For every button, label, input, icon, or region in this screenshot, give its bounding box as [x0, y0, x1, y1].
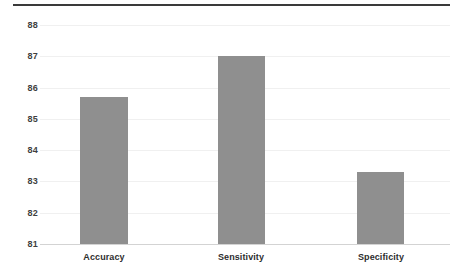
- y-tick-label-88: 88: [14, 20, 38, 30]
- category-label-accuracy: Accuracy: [64, 252, 144, 263]
- y-tick-label-86: 86: [14, 83, 38, 93]
- gridline: [40, 25, 450, 26]
- top-divider-rule: [13, 4, 450, 6]
- y-tick-label-83: 83: [14, 176, 38, 186]
- x-axis-line: [40, 244, 450, 245]
- bar-accuracy[interactable]: [80, 97, 128, 244]
- bar-specificity[interactable]: [357, 172, 404, 244]
- y-tick-label-87: 87: [14, 51, 38, 61]
- y-tick-label-84: 84: [14, 145, 38, 155]
- category-label-sensitivity: Sensitivity: [201, 252, 281, 263]
- y-tick-label-82: 82: [14, 208, 38, 218]
- y-tick-label-85: 85: [14, 114, 38, 124]
- bar-chart: 88 87 86 85 84 83 82 81 Accuracy Sensiti…: [0, 0, 456, 279]
- y-tick-label-81: 81: [14, 239, 38, 249]
- bar-sensitivity[interactable]: [218, 56, 265, 244]
- category-label-specificity: Specificity: [341, 252, 421, 263]
